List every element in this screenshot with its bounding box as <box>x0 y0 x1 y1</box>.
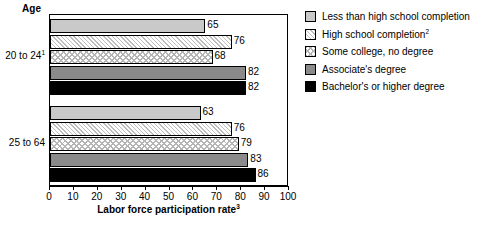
x-axis-tick-label: 60 <box>187 191 198 202</box>
x-axis-tick <box>264 186 265 190</box>
bar-value-label: 76 <box>234 121 245 135</box>
bar-value-label: 83 <box>250 152 261 166</box>
category-label-text: 20 to 24 <box>5 50 41 61</box>
category-label-text: 25 to 64 <box>9 137 45 148</box>
x-axis: 0102030405060708090100 <box>49 186 288 187</box>
light-gray-swatch <box>305 11 316 22</box>
legend-item-3[interactable]: Some college, no degree <box>305 43 485 61</box>
bar-value-label: 86 <box>258 167 269 181</box>
bar-value-label: 65 <box>207 18 218 32</box>
x-axis-title: Labor force participation rate3 <box>49 204 288 215</box>
black-swatch <box>305 81 316 92</box>
x-axis-tick-label: 50 <box>163 191 174 202</box>
bar-1-1 <box>50 19 205 33</box>
x-axis-tick <box>169 186 170 190</box>
x-axis-title-superscript: 3 <box>236 203 240 210</box>
bar-1-3 <box>50 50 213 64</box>
bar-1-2 <box>50 35 232 49</box>
x-axis-tick <box>145 186 146 190</box>
x-axis-tick-label: 10 <box>67 191 78 202</box>
bar-2-1 <box>50 106 201 120</box>
legend-item-2[interactable]: High school completion2 <box>305 26 485 44</box>
x-axis-tick-label: 40 <box>139 191 150 202</box>
x-axis-tick-label: 70 <box>211 191 222 202</box>
bar-value-label: 82 <box>248 65 259 79</box>
bar-2-5 <box>50 168 256 182</box>
bar-value-label: 76 <box>234 34 245 48</box>
bar-1-5 <box>50 81 246 95</box>
bar-value-label: 63 <box>203 105 214 119</box>
x-axis-tick-label: 80 <box>235 191 246 202</box>
bar-2-3 <box>50 137 239 151</box>
legend-item-5[interactable]: Bachelor's or higher degree <box>305 78 485 96</box>
x-axis-tick-label: 0 <box>46 191 52 202</box>
legend-item-superscript: 2 <box>425 27 429 34</box>
x-axis-tick-label: 100 <box>280 191 297 202</box>
bar-value-label: 82 <box>248 80 259 94</box>
x-axis-title-text: Labor force participation rate <box>97 204 236 215</box>
x-axis-tick-label: 20 <box>91 191 102 202</box>
legend: Less than high school completionHigh sch… <box>305 8 485 96</box>
x-axis-tick <box>97 186 98 190</box>
category-label-1: 20 to 241 <box>0 50 45 61</box>
category-label-2: 25 to 64 <box>0 137 45 148</box>
x-axis-tick <box>49 186 50 190</box>
x-axis-tick-label: 30 <box>115 191 126 202</box>
diagonal-hatch-swatch <box>305 29 316 40</box>
bar-2-4 <box>50 153 248 167</box>
legend-item-label: Less than high school completion <box>322 11 470 22</box>
bar-1-4 <box>50 66 246 80</box>
x-axis-tick-label: 90 <box>259 191 270 202</box>
x-axis-tick <box>240 186 241 190</box>
x-axis-tick <box>121 186 122 190</box>
dark-gray-swatch <box>305 64 316 75</box>
checker-swatch <box>305 46 316 57</box>
legend-item-label: Some college, no degree <box>322 46 433 57</box>
bar-value-label: 68 <box>215 49 226 63</box>
legend-item-label: Bachelor's or higher degree <box>322 81 445 92</box>
x-axis-tick <box>73 186 74 190</box>
category-label-superscript: 1 <box>41 49 45 56</box>
legend-item-label: High school completion2 <box>322 29 429 40</box>
legend-item-1[interactable]: Less than high school completion <box>305 8 485 26</box>
x-axis-tick <box>288 186 289 190</box>
legend-item-label: Associate's degree <box>322 64 406 75</box>
age-axis-label: Age <box>22 3 41 14</box>
bar-2-2 <box>50 122 232 136</box>
x-axis-tick <box>192 186 193 190</box>
x-axis-tick <box>216 186 217 190</box>
bar-chart: Age 65766882826376798386 20 to 24125 to … <box>0 0 488 225</box>
legend-item-4[interactable]: Associate's degree <box>305 61 485 79</box>
bar-value-label: 79 <box>241 136 252 150</box>
